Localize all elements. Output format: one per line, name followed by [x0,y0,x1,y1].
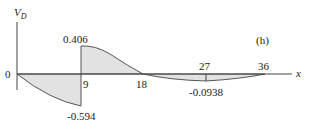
positive-region [81,46,143,74]
value-minus-0594: -0.594 [67,110,96,122]
tick-18: 18 [136,78,148,90]
panel-label: (h) [256,34,269,47]
value-minus-00938: -0.0938 [189,86,223,98]
value-0406: 0.406 [63,33,88,45]
tick-0: 0 [5,68,11,80]
influence-line-diagram: VD x (h) 0 9 18 27 36 0.406 -0.594 -0.09… [0,0,316,132]
y-axis-label: VD [14,6,27,21]
negative-region-left [17,74,81,106]
tick-9: 9 [83,78,89,90]
tick-27: 27 [199,60,211,72]
tick-36: 36 [258,60,270,72]
x-axis-label: x [295,67,301,79]
negative-region-right [143,74,265,81]
